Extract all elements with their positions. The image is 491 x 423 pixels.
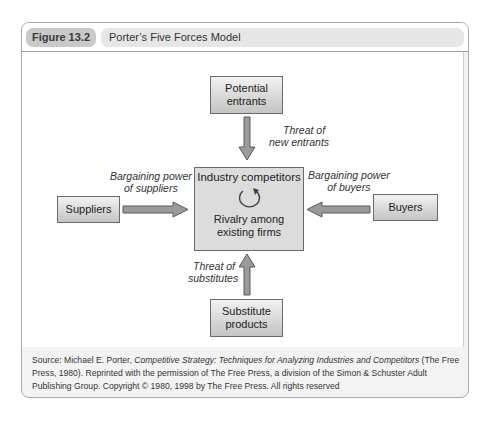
node-buyers: Buyers xyxy=(373,194,438,221)
node-substitute-products: Substitute products xyxy=(210,299,283,337)
arrow-right-icon xyxy=(123,202,189,218)
source-citation: Source: Michael E. Porter, Competitive S… xyxy=(32,354,462,393)
arrow-up-icon xyxy=(238,254,256,296)
five-forces-diagram: Potential entrants Threat of new entrant… xyxy=(22,52,464,347)
figure-number: Figure 13.2 xyxy=(26,28,96,47)
node-label: entrants xyxy=(211,95,282,108)
edge-label-new-entrants: Threat of new entrants xyxy=(269,124,329,148)
arrow-left-icon xyxy=(307,202,371,218)
node-label: Rivalry among xyxy=(195,213,303,226)
book-title: Competitive Strategy: Techniques for Ana… xyxy=(134,355,419,365)
node-industry-competitors: Industry competitors Rivalry among exist… xyxy=(194,167,304,251)
figure-card: Figure 13.2 Porter’s Five Forces Model P… xyxy=(21,22,469,398)
node-title: Industry competitors xyxy=(195,171,303,184)
figure-header: Figure 13.2 Porter’s Five Forces Model xyxy=(22,23,468,52)
figure-title: Porter’s Five Forces Model xyxy=(101,28,464,47)
node-label: Potential xyxy=(211,82,282,95)
arrow-down-icon xyxy=(238,117,256,161)
edge-label-suppliers-power: Bargaining power of suppliers xyxy=(110,170,192,194)
edge-label-buyers-power: Bargaining power of buyers xyxy=(308,169,390,193)
node-potential-entrants: Potential entrants xyxy=(210,76,283,114)
node-label: existing firms xyxy=(195,226,303,239)
node-suppliers: Suppliers xyxy=(57,196,120,223)
edge-label-substitutes: Threat of substitutes xyxy=(188,260,238,284)
cycle-arrow-icon xyxy=(234,187,264,211)
